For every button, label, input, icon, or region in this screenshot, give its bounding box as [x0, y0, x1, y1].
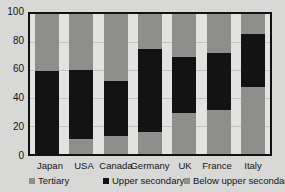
- y-axis-tick-label: 40: [0, 93, 24, 103]
- bar-usa: [69, 14, 93, 154]
- bar-canada: [104, 14, 128, 154]
- bar-segment-below-upper-secondary: [104, 136, 128, 154]
- bar-segment-below-upper-secondary: [138, 132, 162, 154]
- below-upper-secondary-swatch-icon: [184, 178, 190, 184]
- bar-segment-tertiary: [104, 14, 128, 81]
- legend: Tertiary Upper secondary Below upper sec…: [0, 175, 285, 189]
- stacked-bar-chart-figure: 100 80 60 40 20 0 Japan USA Canada Germa…: [0, 0, 285, 192]
- bar-germany: [138, 14, 162, 154]
- bar-segment-below-upper-secondary: [207, 110, 231, 154]
- plot-area: [28, 12, 272, 156]
- bar-segment-upper-secondary: [241, 34, 265, 87]
- bar-uk: [172, 14, 196, 154]
- bar-france: [207, 14, 231, 154]
- tertiary-swatch-icon: [29, 178, 35, 184]
- bar-segment-tertiary: [172, 14, 196, 57]
- bar-japan: [35, 14, 59, 154]
- bar-segment-below-upper-secondary: [241, 87, 265, 154]
- bars-group: [30, 14, 270, 154]
- bar-segment-upper-secondary: [172, 57, 196, 112]
- y-axis-tick-label: 60: [0, 64, 24, 74]
- bar-segment-upper-secondary: [104, 81, 128, 136]
- legend-item-below-upper-secondary[interactable]: Below upper secondary: [184, 175, 285, 186]
- upper-secondary-swatch-icon: [103, 178, 109, 184]
- y-axis-tick-label: 80: [0, 36, 24, 46]
- bar-italy: [241, 14, 265, 154]
- bar-segment-tertiary: [138, 14, 162, 49]
- bar-segment-tertiary: [241, 14, 265, 34]
- legend-label-below-upper-secondary: Below upper secondary: [193, 175, 285, 186]
- bar-segment-below-upper-secondary: [69, 139, 93, 154]
- legend-label-upper-secondary: Upper secondary: [112, 175, 184, 186]
- bar-segment-upper-secondary: [138, 49, 162, 132]
- x-axis-label-italy: Italy: [231, 160, 275, 171]
- legend-item-upper-secondary[interactable]: Upper secondary: [103, 175, 184, 186]
- y-axis-tick-label: 0: [0, 151, 24, 161]
- bar-segment-upper-secondary: [35, 71, 59, 154]
- bar-segment-below-upper-secondary: [172, 113, 196, 154]
- y-axis-tick-label: 20: [0, 122, 24, 132]
- bar-segment-tertiary: [35, 14, 59, 71]
- bar-segment-upper-secondary: [207, 53, 231, 110]
- legend-label-tertiary: Tertiary: [38, 175, 69, 186]
- bar-segment-tertiary: [207, 14, 231, 53]
- y-axis-tick-label: 100: [0, 7, 24, 17]
- bar-segment-tertiary: [69, 14, 93, 70]
- bar-segment-upper-secondary: [69, 70, 93, 139]
- legend-item-tertiary[interactable]: Tertiary: [29, 175, 69, 186]
